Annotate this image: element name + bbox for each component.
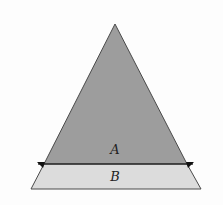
triangle-diagram: A B [0,0,223,205]
label-a: A [109,142,119,157]
label-b: B [109,169,120,184]
